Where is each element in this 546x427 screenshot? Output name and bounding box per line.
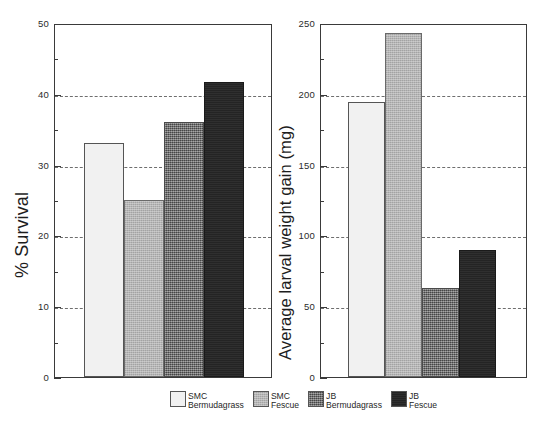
- y-axis-minor-tick: [320, 272, 324, 273]
- y-axis-tick: [320, 95, 327, 96]
- legend-swatch-icon: [391, 391, 407, 407]
- legend-label: SMCFescue: [271, 391, 299, 410]
- y-axis-tick: [320, 24, 327, 25]
- chart-panel-survival: % Survival 01020304050: [0, 0, 280, 390]
- legend-item: JBBermudagrass: [308, 391, 382, 410]
- y-axis-minor-tick: [54, 130, 58, 131]
- y-axis-minor-tick: [320, 59, 324, 60]
- y-axis-tick-label: 40: [23, 89, 49, 100]
- y-axis-tick-label: 10: [23, 301, 49, 312]
- y-axis-minor-tick: [320, 201, 324, 202]
- bar-jb-bermudagrass: [164, 122, 204, 377]
- legend-swatch-icon: [170, 391, 186, 407]
- y-axis-minor-tick: [54, 201, 58, 202]
- bar-jb-fescue: [459, 250, 496, 377]
- legend-item: JBFescue: [391, 391, 437, 410]
- bar-smc-fescue: [124, 200, 164, 377]
- chart-panel-weight-gain: Average larval weight gain (mg) 05010015…: [266, 0, 546, 390]
- bar-jb-bermudagrass: [422, 288, 459, 377]
- legend-label: JBBermudagrass: [326, 391, 382, 410]
- legend-label-line2: Bermudagrass: [188, 401, 244, 410]
- gridline: [321, 96, 526, 97]
- legend-swatch-icon: [253, 391, 269, 407]
- y-axis-minor-tick: [54, 59, 58, 60]
- y-axis-tick: [320, 307, 327, 308]
- y-axis-tick-label: 150: [289, 160, 315, 171]
- plot-area-left: [54, 24, 272, 378]
- plot-area-right: [320, 24, 527, 378]
- y-axis-tick-label: 50: [23, 18, 49, 29]
- legend-label: JBFescue: [409, 391, 437, 410]
- y-axis-tick: [54, 236, 61, 237]
- y-axis-tick-label: 200: [289, 89, 315, 100]
- y-axis-tick-label: 0: [23, 372, 49, 383]
- legend-label-line2: Fescue: [409, 401, 437, 410]
- legend-item: SMCBermudagrass: [170, 391, 244, 410]
- legend-label: SMCBermudagrass: [188, 391, 244, 410]
- y-axis-tick: [54, 24, 61, 25]
- y-axis-tick-label: 100: [289, 230, 315, 241]
- y-axis-minor-tick: [320, 343, 324, 344]
- legend-label-line2: Bermudagrass: [326, 401, 382, 410]
- legend-label-line2: Fescue: [271, 401, 299, 410]
- bar-smc-bermudagrass: [84, 143, 124, 377]
- y-axis-tick-label: 0: [289, 372, 315, 383]
- y-axis-tick: [320, 236, 327, 237]
- y-axis-tick-label: 30: [23, 160, 49, 171]
- y-axis-tick: [54, 307, 61, 308]
- y-axis-minor-tick: [54, 343, 58, 344]
- y-axis-tick-label: 20: [23, 230, 49, 241]
- y-axis-tick: [320, 378, 327, 379]
- y-axis-tick: [54, 378, 61, 379]
- y-axis-tick-label: 250: [289, 18, 315, 29]
- legend-swatch-icon: [308, 391, 324, 407]
- legend-item: SMCFescue: [253, 391, 299, 410]
- y-axis-minor-tick: [320, 130, 324, 131]
- y-axis-tick-label: 50: [289, 301, 315, 312]
- bar-smc-bermudagrass: [348, 102, 385, 377]
- figure: % Survival 01020304050 Average larval we…: [0, 0, 546, 427]
- bar-jb-fescue: [204, 82, 244, 377]
- legend: SMCBermudagrassSMCFescueJBBermudagrassJB…: [170, 391, 420, 421]
- y-axis-tick: [320, 166, 327, 167]
- bar-smc-fescue: [385, 33, 422, 377]
- y-axis-tick: [54, 95, 61, 96]
- y-axis-minor-tick: [54, 272, 58, 273]
- y-axis-tick: [54, 166, 61, 167]
